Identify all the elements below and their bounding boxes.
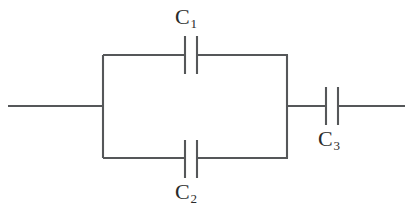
c2-label: C2 bbox=[175, 181, 197, 203]
c1-label: C1 bbox=[175, 6, 197, 28]
c2-label-letter: C bbox=[175, 179, 190, 204]
c3-label: C3 bbox=[318, 128, 340, 150]
c2-label-subscript: 2 bbox=[190, 191, 197, 206]
c1-label-subscript: 1 bbox=[190, 16, 197, 31]
c1-label-letter: C bbox=[175, 4, 190, 29]
c3-label-letter: C bbox=[318, 126, 333, 151]
circuit-schematic-drawing bbox=[0, 0, 413, 217]
circuit-diagram: C1 C2 C3 bbox=[0, 0, 413, 217]
c3-label-subscript: 3 bbox=[333, 138, 340, 153]
